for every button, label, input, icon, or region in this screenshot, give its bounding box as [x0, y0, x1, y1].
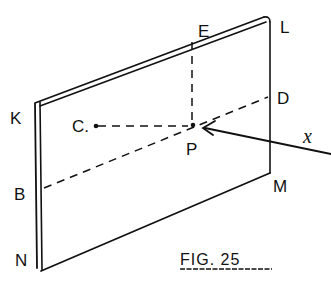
plate-corner-l: [264, 17, 270, 22]
point-c: [94, 124, 99, 129]
point-p: [191, 123, 196, 128]
label-l: L: [280, 18, 289, 37]
dashed-line-bd: [44, 97, 268, 188]
figure-caption: FIG. 25: [180, 251, 240, 268]
label-d: D: [277, 89, 289, 108]
label-m: M: [273, 177, 287, 196]
diagram-canvas: K E L D C. P x B M N FIG. 25: [0, 0, 331, 285]
label-n: N: [15, 251, 27, 270]
plate-left-edge-outer: [35, 104, 37, 268]
label-c: C.: [72, 117, 89, 136]
label-k: K: [10, 109, 22, 128]
plate-top-edge-outer: [35, 17, 264, 103]
construction-lines: [44, 42, 268, 188]
label-e: E: [198, 22, 209, 41]
arrow-shaft: [205, 128, 331, 154]
plate-left-edge-inner: [40, 102, 42, 270]
plate-top-edge-inner: [40, 22, 266, 106]
label-p: P: [186, 140, 197, 159]
label-x: x: [302, 125, 312, 147]
label-b: B: [14, 185, 25, 204]
